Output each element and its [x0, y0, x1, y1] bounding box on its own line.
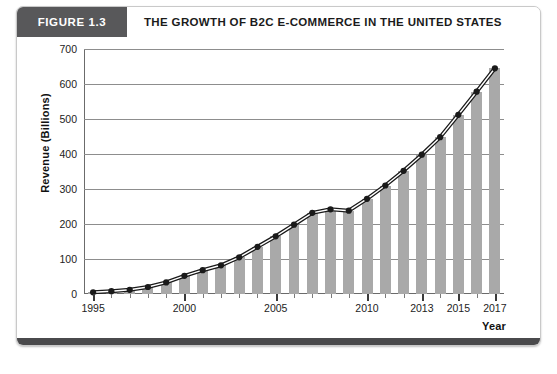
y-axis-title: Revenue (Billions) [39, 63, 51, 223]
data-point-marker [254, 244, 260, 250]
y-axis-tick-label: 600 [59, 78, 77, 90]
x-axis-minor-tick [257, 294, 258, 298]
y-axis-tick-label: 100 [59, 253, 77, 265]
data-point-marker [382, 182, 388, 188]
x-axis-major-tick [184, 294, 186, 301]
x-axis-title: Year [482, 320, 506, 332]
x-axis-minor-tick [440, 294, 441, 298]
line-series [84, 49, 504, 294]
trend-line-inner [93, 68, 495, 292]
x-axis-major-tick [276, 294, 278, 301]
data-point-marker [236, 254, 242, 260]
x-axis-minor-tick [312, 294, 313, 298]
data-point-marker [419, 152, 425, 158]
data-point-marker [364, 196, 370, 202]
y-axis-tick-label: 500 [59, 113, 77, 125]
x-axis-tick-label: 2017 [483, 302, 506, 314]
data-point-marker [200, 267, 206, 273]
data-point-marker [492, 65, 498, 71]
chart-body: Revenue (Billions) Year 0100200300400500… [17, 37, 540, 340]
data-point-marker [273, 233, 279, 239]
y-axis-tick-label: 0 [71, 288, 77, 300]
x-axis-minor-tick [477, 294, 478, 298]
data-point-marker [181, 273, 187, 279]
x-axis-minor-tick [221, 294, 222, 298]
x-axis-minor-tick [239, 294, 240, 298]
data-point-marker [218, 262, 224, 268]
data-point-marker [163, 279, 169, 285]
data-point-marker [401, 168, 407, 174]
x-axis-tick-label: 2013 [410, 302, 433, 314]
data-point-marker [145, 284, 151, 290]
plot-area: 0100200300400500600700 19952000200520102… [84, 49, 504, 294]
x-axis-tick-label: 2005 [264, 302, 287, 314]
data-point-marker [127, 287, 133, 293]
data-point-marker [291, 222, 297, 228]
x-axis-minor-tick [349, 294, 350, 298]
x-axis-minor-tick [294, 294, 295, 298]
x-axis-tick-label: 2000 [173, 302, 196, 314]
data-point-marker [455, 112, 461, 118]
y-axis-tick-label: 400 [59, 148, 77, 160]
x-axis-major-tick [495, 294, 497, 301]
x-axis-minor-tick [331, 294, 332, 298]
x-axis-minor-tick [130, 294, 131, 298]
y-axis-tick-label: 200 [59, 218, 77, 230]
x-axis-major-tick [367, 294, 369, 301]
figure-number-badge: FIGURE 1.3 [17, 7, 127, 37]
x-axis-minor-tick [166, 294, 167, 298]
x-axis-minor-tick [385, 294, 386, 298]
x-axis-minor-tick [203, 294, 204, 298]
x-axis-major-tick [458, 294, 460, 301]
figure-panel: FIGURE 1.3 THE GROWTH OF B2C E-COMMERCE … [16, 6, 541, 346]
trend-line-outline [93, 68, 495, 292]
data-point-marker [346, 208, 352, 214]
data-point-marker [309, 210, 315, 216]
figure-title: THE GROWTH OF B2C E-COMMERCE IN THE UNIT… [127, 7, 540, 37]
figure-header: FIGURE 1.3 THE GROWTH OF B2C E-COMMERCE … [17, 7, 540, 38]
x-axis-minor-tick [404, 294, 405, 298]
x-axis-minor-tick [148, 294, 149, 298]
x-axis-tick-label: 2015 [447, 302, 470, 314]
y-axis-tick-label: 700 [59, 43, 77, 55]
x-axis-major-tick [93, 294, 95, 301]
data-point-marker [474, 89, 480, 95]
x-axis-minor-tick [111, 294, 112, 298]
x-axis-major-tick [422, 294, 424, 301]
x-axis-tick-label: 2010 [355, 302, 378, 314]
figure-bottom-rule [17, 338, 540, 345]
data-point-marker [327, 206, 333, 212]
data-point-marker [437, 134, 443, 140]
figure-screenshot: FIGURE 1.3 THE GROWTH OF B2C E-COMMERCE … [0, 0, 557, 374]
y-axis-tick-label: 300 [59, 183, 77, 195]
x-axis-tick-label: 1995 [81, 302, 104, 314]
